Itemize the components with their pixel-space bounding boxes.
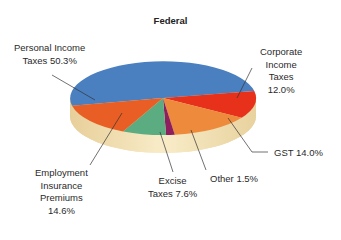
- label-other: Other 1.5%: [210, 173, 258, 186]
- label-excise: ExciseTaxes 7.6%: [148, 175, 197, 200]
- label-gst: GST 14.0%: [274, 147, 323, 160]
- label-corporate-income: CorporateIncome Taxes12.0%: [260, 46, 302, 96]
- pie-slices: [70, 61, 256, 135]
- label-personal-income: Personal IncomeTaxes 50.3%: [14, 42, 85, 67]
- label-employment-insurance: EmploymentInsurance Premiums14.6%: [35, 167, 88, 217]
